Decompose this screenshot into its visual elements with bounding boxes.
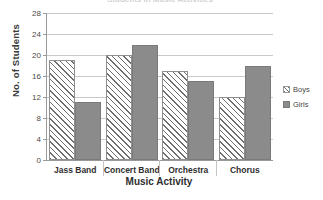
y-tick-mark	[43, 160, 47, 161]
x-axis-title: Music Activity	[46, 176, 272, 187]
x-tick-label: Jass Band	[47, 165, 104, 175]
x-tick-label: Chorus	[217, 165, 274, 175]
bar-boys[interactable]	[106, 55, 132, 160]
bar-group: Chorus	[217, 13, 274, 160]
bar-groups: Jass BandConcert BandOrchestraChorus	[47, 13, 273, 160]
x-tick-label: Concert Band	[104, 165, 161, 175]
y-tick-label: 20	[32, 51, 41, 60]
gridline	[47, 160, 273, 161]
y-tick-label: 4	[37, 135, 41, 144]
bar-girls[interactable]	[188, 81, 214, 160]
chart-title: Students in Music Activities	[70, 0, 250, 2]
legend-item-girls[interactable]: Girls	[283, 100, 310, 109]
bar-boys[interactable]	[49, 60, 75, 160]
bar-boys[interactable]	[162, 71, 188, 160]
diagonal-hatch-swatch	[283, 86, 290, 93]
legend-item-boys[interactable]: Boys	[283, 85, 310, 94]
legend-label: Girls	[293, 100, 308, 109]
y-tick-label: 16	[32, 72, 41, 81]
y-tick-label: 12	[32, 93, 41, 102]
y-tick-label: 28	[32, 9, 41, 18]
y-axis-title: No. of Students	[10, 6, 21, 116]
bar-group: Orchestra	[160, 13, 217, 160]
y-tick-label: 0	[37, 156, 41, 165]
x-tick-label: Orchestra	[160, 165, 217, 175]
y-tick-label: 8	[37, 114, 41, 123]
bar-group: Concert Band	[104, 13, 161, 160]
bar-girls[interactable]	[75, 102, 101, 160]
stipple-swatch	[283, 101, 290, 108]
plot-area: 0481216202428 Jass BandConcert BandOrche…	[46, 13, 273, 161]
bar-girls[interactable]	[245, 66, 271, 161]
bar-group: Jass Band	[47, 13, 104, 160]
y-tick-label: 24	[32, 30, 41, 39]
bar-boys[interactable]	[219, 97, 245, 160]
bar-chart: Students in Music Activities No. of Stud…	[0, 0, 323, 200]
legend-label: Boys	[293, 85, 310, 94]
chart-legend: BoysGirls	[283, 85, 310, 109]
bar-girls[interactable]	[132, 45, 158, 161]
